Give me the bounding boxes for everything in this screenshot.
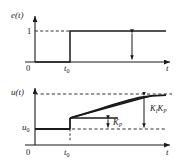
output-origin-label: 0 — [26, 147, 30, 157]
output-t0-sub: 0 — [67, 152, 70, 158]
output-u0-label: u0 — [22, 123, 30, 132]
input-origin-label: 0 — [26, 63, 30, 73]
ki-base: K — [150, 103, 156, 113]
input-y-axis-label: e(t) — [11, 11, 24, 20]
figure-svg — [0, 0, 188, 166]
input-t0-label: t0 — [64, 64, 70, 73]
kp-annotation: KP — [113, 117, 122, 127]
input-step-curve — [35, 31, 166, 62]
input-panel-axes — [25, 16, 170, 62]
output-y-axis-label: u(t) — [11, 88, 24, 97]
output-x-axis-label: t — [166, 148, 169, 157]
output-t0-label: t0 — [64, 148, 70, 157]
ki-sub: I — [156, 108, 158, 114]
kp-sub: P — [119, 122, 122, 128]
output-u0-base: u — [22, 122, 27, 132]
output-u0-sub: 0 — [27, 127, 30, 133]
input-x-axis-label: t — [166, 64, 169, 73]
input-y-tick-label: 1 — [27, 26, 31, 36]
kikp-annotation: KIKP — [150, 103, 167, 113]
figure-container: e(t) 1 0 t0 t u(t) u0 0 t0 t KP KIKP — [0, 0, 188, 166]
kp-base: K — [113, 117, 119, 127]
input-t0-sub: 0 — [67, 68, 70, 74]
kp2-sub: P — [163, 108, 166, 114]
